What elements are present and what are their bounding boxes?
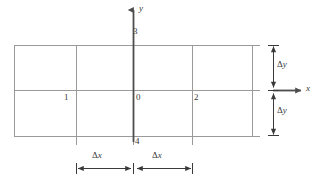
node-label-2: 2 bbox=[194, 93, 199, 102]
delta-y-upper-label: Δy bbox=[277, 60, 287, 69]
node-label-3: 3 bbox=[133, 27, 138, 36]
node-label-0: 0 bbox=[136, 93, 141, 102]
delta-x-variable: x bbox=[158, 150, 162, 160]
grid-lines bbox=[14, 45, 260, 137]
delta-y-lower-label: Δy bbox=[277, 106, 287, 115]
delta-y-variable: y bbox=[283, 59, 287, 69]
delta-y-variable: y bbox=[283, 105, 287, 115]
axes bbox=[134, 10, 302, 142]
node-label-1: 1 bbox=[64, 93, 69, 102]
node-label-4: 4 bbox=[135, 137, 140, 146]
delta-x-right-label: Δx bbox=[152, 151, 162, 160]
x-axis-label: x bbox=[306, 84, 310, 93]
delta-x-dimension-group bbox=[77, 163, 193, 174]
delta-x-left-label: Δx bbox=[92, 151, 102, 160]
finite-difference-grid-figure: y x 3 1 0 2 4 Δx Δx Δy Δy bbox=[0, 0, 318, 180]
delta-x-variable: x bbox=[98, 150, 102, 160]
y-axis-label: y bbox=[139, 4, 143, 13]
